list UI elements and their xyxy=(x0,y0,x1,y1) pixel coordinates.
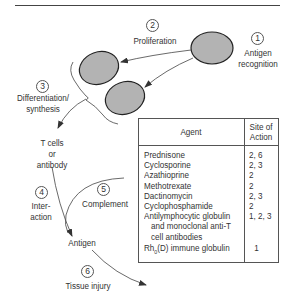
step-label-line: Antigen xyxy=(235,48,281,59)
lymphocyte-cell-daughter-2 xyxy=(101,76,150,120)
agent-name: Methotrexate xyxy=(144,181,191,191)
site-cell: 1 xyxy=(245,242,279,263)
agent-cell: Antilymphocytic globulin and monoclonal … xyxy=(139,211,245,242)
lymphocyte-cell-original xyxy=(191,32,233,64)
agent-cell: Methotrexate xyxy=(139,181,245,191)
agent-cell: Prednisone xyxy=(139,146,245,161)
agent-name: Cyclophosphamide xyxy=(144,201,213,211)
header-site-line: Action xyxy=(250,132,272,142)
step-label-proliferation: Proliferation xyxy=(129,36,182,47)
agent-name: Antilymphocytic globulin and monoclonal … xyxy=(144,211,231,242)
table-row: Cyclosporine 2, 3 xyxy=(139,160,279,170)
header-site-text: Site ofAction xyxy=(250,122,273,143)
step-number-6: 6 xyxy=(81,265,94,278)
node-line: or xyxy=(33,149,72,160)
agent-name-line: cell antibodies xyxy=(144,232,231,242)
agent-name-prefix: Rh xyxy=(144,243,154,253)
node-tcells-or-antibody: T cells or antibody xyxy=(33,138,72,171)
step-label-differentiation: Differentiation/ synthesis xyxy=(14,93,72,115)
site-cell: 2, 6 xyxy=(245,146,279,161)
node-line: T cells xyxy=(33,138,72,149)
site-value: 2, 3 xyxy=(249,191,262,201)
immunosuppressive-agents-table: Agent Site ofAction Prednisone 2, 6 Cycl… xyxy=(138,118,279,263)
header-agent: Agent xyxy=(139,119,245,146)
step-label-antigen-recognition: Antigen recognition xyxy=(235,48,281,70)
agent-name: Prednisone xyxy=(144,150,185,160)
agent-cell: Dactinomycin xyxy=(139,191,245,201)
site-cell: 2 xyxy=(245,181,279,191)
table-row: Antilymphocytic globulin and monoclonal … xyxy=(139,211,279,242)
agent-name: Azathioprine xyxy=(144,170,189,180)
node-antigen: Antigen xyxy=(64,238,99,249)
site-cell: 2 xyxy=(245,170,279,180)
step-number-1: 1 xyxy=(251,32,264,45)
table-row: Cyclophosphamide 2 xyxy=(139,201,279,211)
site-value: 1, 2, 3 xyxy=(249,211,271,221)
step-number-3: 3 xyxy=(36,80,49,93)
agent-cell: Cyclophosphamide xyxy=(139,201,245,211)
arrow-proliferation-1 xyxy=(121,50,191,62)
node-line: antibody xyxy=(33,160,72,171)
step-number-2: 2 xyxy=(146,19,159,32)
step-label-line: Differentiation/ xyxy=(14,93,72,104)
agent-name-line: Antilymphocytic globulin xyxy=(144,211,230,221)
table-header-row: Agent Site ofAction xyxy=(139,119,279,146)
arrow-proliferation-2 xyxy=(145,58,193,87)
header-site-line: Site of xyxy=(250,122,273,132)
agent-name: Cyclosporine xyxy=(144,160,191,170)
site-value: 2, 6 xyxy=(249,150,262,160)
table-row: Rh0(D) immune globulin 1 xyxy=(139,242,279,263)
site-cell: 1, 2, 3 xyxy=(245,211,279,242)
agent-name: Dactinomycin xyxy=(144,191,193,201)
header-agent-text: Agent xyxy=(181,127,202,138)
agent-name-line: and monoclonal anti-T xyxy=(144,221,231,231)
site-value: 2, 3 xyxy=(249,160,262,170)
step-number-4: 4 xyxy=(35,186,48,199)
agent-cell: Cyclosporine xyxy=(139,160,245,170)
agent-name-suffix: (D) immune globulin xyxy=(157,243,229,253)
lymphocyte-cell-daughter-1 xyxy=(75,46,124,90)
step-label-interaction: Inter- action xyxy=(24,201,57,223)
table-row: Prednisone 2, 6 xyxy=(139,146,279,161)
agent-cell: Azathioprine xyxy=(139,170,245,180)
table-row: Methotrexate 2 xyxy=(139,181,279,191)
table-row: Dactinomycin 2, 3 xyxy=(139,191,279,201)
step-label-tissue-injury: Tissue injury xyxy=(63,281,112,292)
header-site-of-action: Site ofAction xyxy=(245,119,279,146)
step-label-complement: Complement xyxy=(80,199,129,210)
site-cell: 2, 3 xyxy=(245,160,279,170)
agent-cell: Rh0(D) immune globulin xyxy=(139,242,245,263)
agent-name: Rh0(D) immune globulin xyxy=(144,243,230,257)
step-label-line: Inter- xyxy=(24,201,57,212)
step-label-line: synthesis xyxy=(14,104,72,115)
site-value: 2 xyxy=(249,201,254,211)
step-label-line: action xyxy=(24,212,57,223)
site-value: 1 xyxy=(249,243,259,253)
site-cell: 2 xyxy=(245,201,279,211)
site-cell: 2, 3 xyxy=(245,191,279,201)
site-value: 2 xyxy=(249,181,254,191)
site-value: 2 xyxy=(249,170,254,180)
step-number-5: 5 xyxy=(97,183,110,196)
table-row: Azathioprine 2 xyxy=(139,170,279,180)
step-label-line: recognition xyxy=(235,59,281,70)
